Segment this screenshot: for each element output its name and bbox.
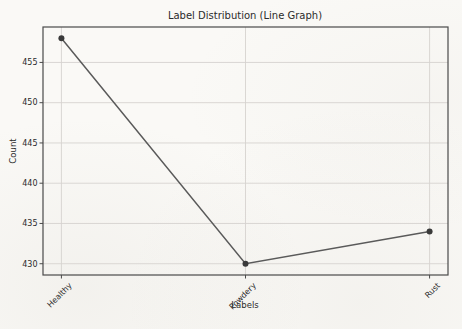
gridlines xyxy=(43,27,448,275)
line-chart: 430435440445450455HealthyPowderyRust Lab… xyxy=(0,0,462,329)
x-tick-label: Rust xyxy=(423,281,442,300)
y-tick-label: 435 xyxy=(22,219,37,228)
y-tick-label: 430 xyxy=(22,260,37,269)
y-tick-label: 440 xyxy=(22,179,37,188)
data-point xyxy=(58,35,64,41)
x-tick-label: Healthy xyxy=(46,281,74,309)
data-point xyxy=(427,229,433,235)
x-axis-title: Labels xyxy=(231,300,259,310)
chart-title: Label Distribution (Line Graph) xyxy=(168,10,322,21)
axis-ticks: 430435440445450455HealthyPowderyRust xyxy=(22,58,442,311)
y-axis-title: Count xyxy=(8,138,18,164)
y-tick-label: 445 xyxy=(22,139,37,148)
data-point xyxy=(243,261,249,267)
chart-figure: 430435440445450455HealthyPowderyRust Lab… xyxy=(0,0,462,329)
y-tick-label: 455 xyxy=(22,58,37,67)
y-tick-label: 450 xyxy=(22,98,37,107)
